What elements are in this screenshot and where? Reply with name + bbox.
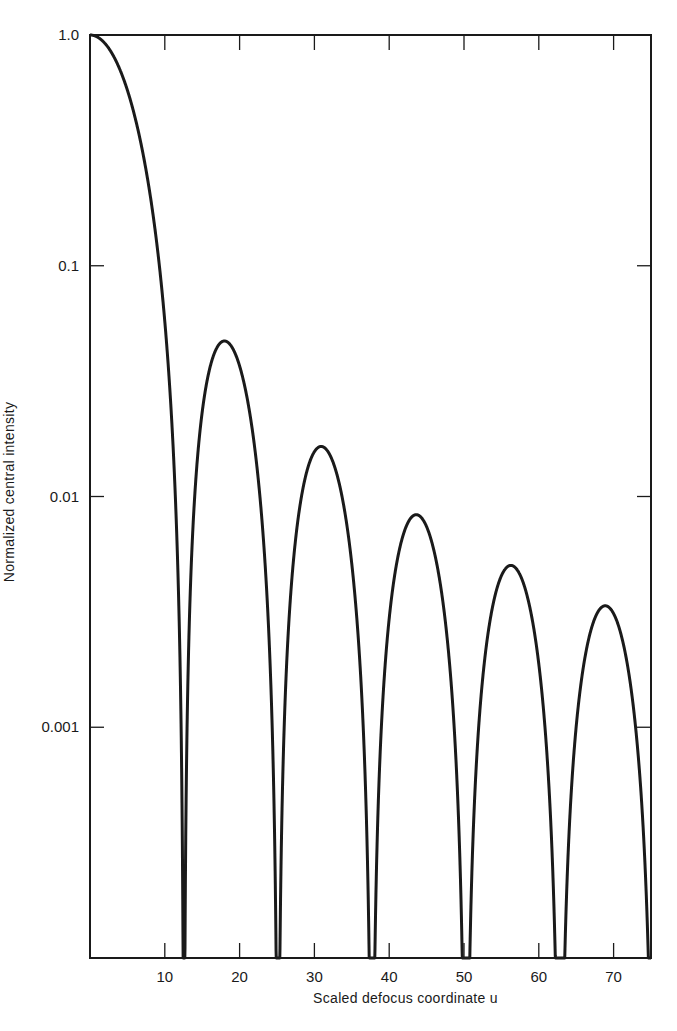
x-tick-label: 60 bbox=[530, 968, 547, 985]
intensity-curve bbox=[90, 35, 651, 958]
y-tick-label: 0.001 bbox=[41, 718, 79, 735]
x-tick-label: 20 bbox=[231, 968, 248, 985]
x-tick-label: 40 bbox=[381, 968, 398, 985]
y-tick-label: 1.0 bbox=[58, 26, 79, 43]
x-axis-label: Scaled defocus coordinate u bbox=[313, 990, 498, 1006]
y-tick-label: 0.01 bbox=[50, 488, 79, 505]
x-tick-label: 10 bbox=[156, 968, 173, 985]
x-tick-label: 70 bbox=[605, 968, 622, 985]
x-tick-label: 50 bbox=[456, 968, 473, 985]
x-tick-label: 30 bbox=[306, 968, 323, 985]
y-axis-label: Normalized central intensity bbox=[1, 402, 17, 582]
y-tick-label: 0.1 bbox=[58, 257, 79, 274]
chart: 10203040506070 1.00.10.010.001 Scaled de… bbox=[0, 0, 677, 1031]
y-axis-ticks: 1.00.10.010.001 bbox=[41, 26, 651, 735]
